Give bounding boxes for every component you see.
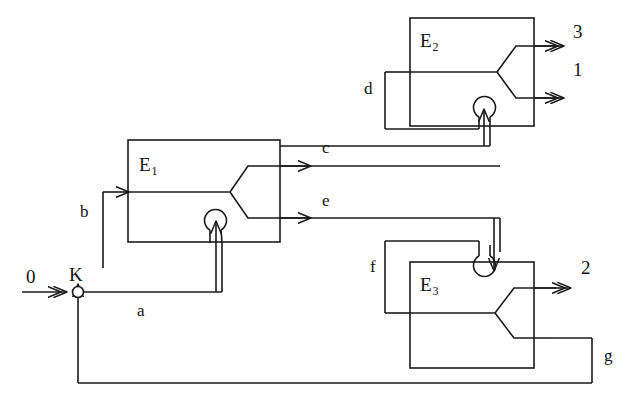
signal-label-g: g (604, 347, 613, 364)
signal-label-d: d (364, 80, 373, 97)
element-label-E1-sub: 1 (152, 164, 158, 178)
element-label-E1: E1 (139, 155, 157, 174)
signal-b-path (103, 192, 128, 268)
element-label-E2-sub: 2 (433, 40, 439, 54)
signal-a-path (78, 209, 227, 292)
port-label-1: 1 (573, 60, 583, 79)
signal-label-e: e (322, 192, 330, 209)
port-label-0: 0 (26, 267, 36, 286)
signal-e-path (474, 218, 501, 277)
signal-d-path (385, 72, 479, 129)
port-label-2: 2 (581, 258, 591, 277)
port-label-3: 3 (573, 22, 583, 41)
signal-label-a: a (137, 302, 145, 319)
signal-label-b: b (80, 203, 89, 220)
diagram-canvas: E1 E2 E3 0 K 3 1 2 a b c d e f g (0, 0, 639, 404)
element-label-E3-sub: 3 (433, 284, 439, 298)
signal-label-f: f (370, 258, 376, 275)
element-label-E2: E2 (420, 31, 438, 50)
element-label-E3: E3 (420, 275, 438, 294)
junction-K-node (73, 287, 84, 298)
signal-label-c: c (322, 139, 330, 156)
port-label-K: K (69, 265, 83, 284)
crossover-hop-e (474, 256, 496, 277)
signal-c-path (280, 96, 496, 146)
block-diagram-svg (0, 0, 639, 404)
element-E1-group (128, 140, 500, 242)
